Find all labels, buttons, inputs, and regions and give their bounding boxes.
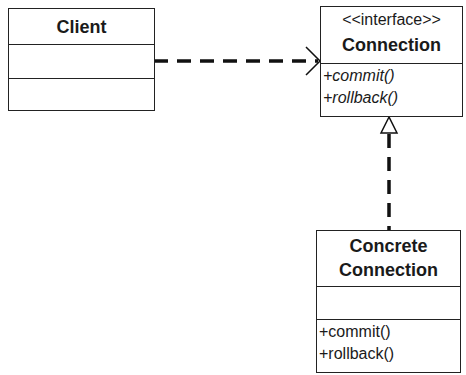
operation-rollback: +rollback() bbox=[317, 343, 460, 365]
class-client[interactable]: Client bbox=[8, 8, 155, 111]
concrete-name-line2: Connection bbox=[317, 260, 460, 281]
operation-commit: +commit() bbox=[317, 321, 460, 343]
connection-stereotype: <<interface>> bbox=[321, 11, 462, 29]
client-attributes bbox=[9, 44, 154, 78]
client-name: Client bbox=[9, 17, 154, 38]
concrete-attributes bbox=[317, 286, 460, 319]
client-operations bbox=[9, 78, 154, 110]
connection-name: Connection bbox=[321, 35, 462, 56]
concrete-name-line1: Concrete bbox=[317, 236, 460, 257]
operation-rollback: +rollback() bbox=[321, 87, 462, 109]
class-concrete-connection[interactable]: Concrete Connection +commit() +rollback(… bbox=[316, 230, 461, 373]
hollow-triangle-icon bbox=[381, 117, 397, 133]
connection-operations: +commit() +rollback() bbox=[321, 63, 462, 109]
operation-commit: +commit() bbox=[321, 65, 462, 87]
class-connection[interactable]: <<interface>> Connection +commit() +roll… bbox=[320, 6, 463, 117]
concrete-operations: +commit() +rollback() bbox=[317, 319, 460, 365]
